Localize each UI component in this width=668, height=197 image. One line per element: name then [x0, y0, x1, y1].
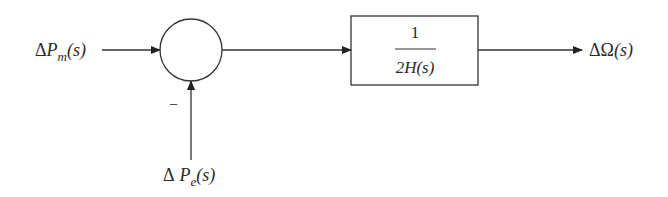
block-numerator: 1	[411, 23, 420, 42]
feedback-label: ΔPe(s)	[163, 165, 215, 189]
block-denominator: 2H(s)	[396, 58, 435, 77]
output-label: ΔΩ(s)	[589, 40, 633, 61]
block-diagram: ΔPm(s) − ΔPe(s) 1 2H(s) ΔΩ(s)	[0, 0, 668, 197]
minus-sign: −	[169, 96, 178, 113]
summing-junction	[160, 19, 222, 81]
input-label: ΔPm(s)	[35, 40, 86, 64]
